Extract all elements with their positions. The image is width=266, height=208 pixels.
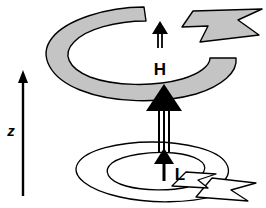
upper-outflow-arrow	[152, 21, 168, 48]
upper-outflow-arrow-head	[152, 21, 168, 34]
label-h: H	[154, 60, 166, 79]
lower-rotating-ring	[76, 142, 256, 202]
z-axis-arrow	[18, 70, 28, 196]
diagram-canvas: H L z	[0, 0, 266, 208]
upper-rotating-ring	[46, 7, 262, 101]
lower-ring-arrowhead-outer	[196, 178, 256, 201]
upper-ring-arrowhead	[182, 9, 262, 42]
central-arrow-head-lower	[154, 148, 174, 164]
label-z: z	[6, 122, 15, 139]
vortex-diagram-figure: H L z	[0, 0, 266, 208]
label-l: L	[175, 165, 185, 184]
